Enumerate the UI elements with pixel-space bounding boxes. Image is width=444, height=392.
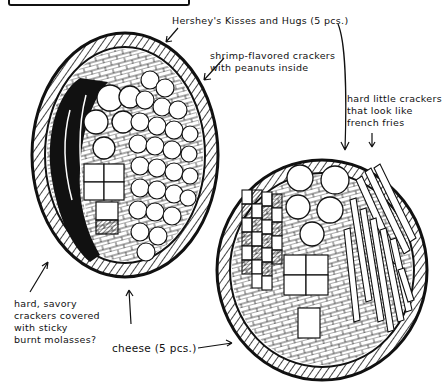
arrow-fries bbox=[369, 133, 375, 147]
label-kisses: Hershey's Kisses and Hugs (5 pcs.) bbox=[172, 15, 348, 27]
arrow-cheese bbox=[126, 290, 133, 324]
label-fries: hard little crackers that look like fren… bbox=[347, 93, 442, 129]
label-shrimp: shrimp-flavored crackers with peanuts in… bbox=[210, 50, 335, 74]
arrow-molasses bbox=[30, 262, 48, 292]
arrow-cheese-right bbox=[198, 340, 232, 348]
arrow-kisses-right bbox=[338, 24, 349, 150]
label-cheese: cheese (5 pcs.) bbox=[112, 342, 197, 354]
label-molasses: hard, savory crackers covered with stick… bbox=[14, 298, 100, 346]
arrow-kisses bbox=[166, 28, 178, 42]
right-tray bbox=[217, 160, 427, 380]
left-tray bbox=[32, 33, 218, 277]
